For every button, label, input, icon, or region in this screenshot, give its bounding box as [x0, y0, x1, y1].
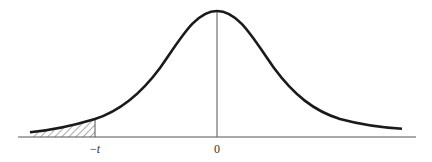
normal-distribution-diagram: [0, 0, 432, 162]
tick-label-zero: 0: [214, 143, 220, 155]
tick-label-neg-t: −t: [90, 143, 100, 155]
bell-curve: [30, 11, 402, 132]
neg-t-sign: −: [90, 142, 97, 156]
neg-t-variable: t: [97, 142, 100, 156]
zero-label: 0: [214, 142, 220, 156]
